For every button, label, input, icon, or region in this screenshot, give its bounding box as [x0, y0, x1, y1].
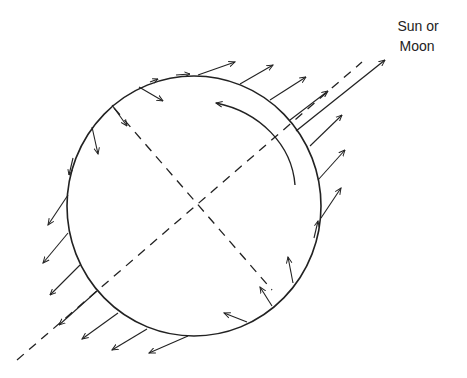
- dashed-axis-to-sun: [17, 62, 362, 360]
- far-side-force-arrows: [43, 195, 188, 353]
- rotation-arrow-icon: [216, 103, 295, 185]
- sun-or-moon-label-line2: Moon: [382, 36, 452, 56]
- arrow-to-sun-icon: [296, 60, 385, 131]
- earth-circle: [67, 76, 321, 336]
- inward-force-arrows: [92, 87, 163, 154]
- sun-or-moon-label-line1: Sun or: [383, 16, 453, 36]
- dashed-perpendicular-axis: [114, 108, 272, 290]
- tidal-force-diagram: [0, 0, 467, 378]
